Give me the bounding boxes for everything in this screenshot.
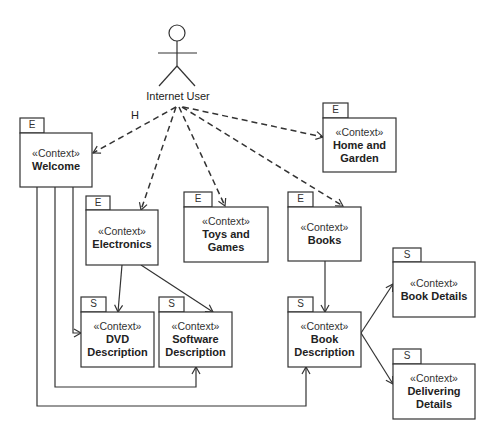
stereotype: «Context»: [410, 372, 458, 385]
node-name: Home and: [333, 139, 386, 152]
node-name: Book: [311, 333, 339, 346]
node-books: «Context» Books: [288, 207, 361, 261]
books-tag: E: [288, 193, 313, 204]
delivering-tag: S: [393, 350, 421, 361]
node-toys-games: «Context» Toys and Games: [184, 207, 268, 262]
node-electronics: «Context» Electronics: [86, 210, 158, 265]
actor-icon: [158, 25, 197, 86]
edge-actor-home: [183, 107, 323, 137]
stereotype: «Context»: [202, 215, 250, 228]
node-book-details: «Context» Book Details: [393, 262, 475, 317]
edge-label-h: H: [131, 109, 139, 121]
node-name: Description: [165, 346, 226, 359]
node-name: Delivering: [407, 385, 460, 398]
node-book-description: «Context» Book Description: [288, 312, 361, 367]
node-welcome: «Context» Welcome: [20, 133, 92, 187]
node-name: Welcome: [32, 160, 80, 173]
node-name: DVD: [106, 333, 129, 346]
edge-bookdesc-delivering: [361, 333, 393, 384]
edge-actor-books: [182, 107, 343, 206]
node-name: Details: [416, 398, 452, 411]
stereotype: «Context»: [301, 320, 349, 333]
node-name: Books: [308, 234, 342, 247]
book-desc-tag: S: [288, 298, 313, 309]
node-name: Description: [87, 346, 148, 359]
node-name: Garden: [340, 152, 379, 165]
stereotype: «Context»: [98, 225, 146, 238]
edge-welcome-dvd: [73, 187, 81, 333]
software-tag: S: [159, 298, 184, 309]
stereotype: «Context»: [336, 126, 384, 139]
node-dvd-description: «Context» DVD Description: [81, 312, 154, 367]
stereotype: «Context»: [301, 221, 349, 234]
edge-actor-toys: [179, 107, 225, 206]
toys-tag: E: [184, 193, 212, 204]
node-name: Toys and: [202, 228, 249, 241]
stereotype: «Context»: [94, 320, 142, 333]
welcome-tag: E: [20, 119, 44, 130]
uml-context-diagram: Internet User H E E E E E S S S S S «Con…: [0, 0, 489, 433]
node-software-description: «Context» Software Description: [159, 312, 232, 367]
dvd-tag: S: [81, 298, 106, 309]
node-delivering-details: «Context» Delivering Details: [393, 364, 475, 419]
stereotype: «Context»: [172, 320, 220, 333]
edge-electronics-dvd: [118, 265, 122, 312]
node-name: Description: [294, 346, 355, 359]
edge-actor-electronics: [141, 107, 176, 210]
stereotype: «Context»: [32, 147, 80, 160]
node-name: Games: [208, 241, 245, 254]
node-name: Electronics: [92, 238, 151, 251]
node-name: Software: [172, 333, 218, 346]
node-home-garden: «Context» Home and Garden: [323, 118, 396, 172]
node-name: Book Details: [401, 290, 468, 303]
electronics-tag: E: [86, 197, 110, 208]
actor-label: Internet User: [140, 90, 216, 102]
home-garden-tag: E: [323, 104, 348, 115]
edge-bookdesc-bookdetails: [361, 284, 393, 333]
stereotype: «Context»: [410, 277, 458, 290]
book-details-tag: S: [393, 249, 421, 260]
